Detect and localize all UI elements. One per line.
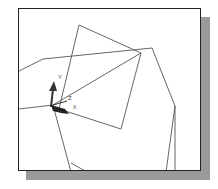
wireframe-drawing: Y Z X xyxy=(19,9,201,171)
svg-text:Y: Y xyxy=(58,74,62,80)
svg-text:Z: Z xyxy=(68,95,72,101)
svg-text:X: X xyxy=(73,104,77,110)
outer-polygon xyxy=(19,48,175,171)
graphics-viewport[interactable]: Y Z X xyxy=(18,8,201,171)
